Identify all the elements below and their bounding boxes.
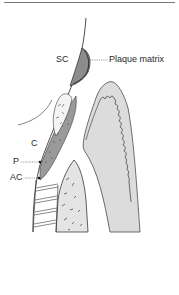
label-plaque-matrix: Plaque matrix	[109, 55, 164, 64]
ac-marker	[38, 177, 41, 180]
label-c: C	[31, 139, 38, 148]
soft-tissue-curve	[18, 100, 52, 125]
alveolar-bone	[56, 160, 88, 232]
label-sc: SC	[56, 55, 69, 64]
p-marker	[39, 161, 42, 164]
supragingival-plaque	[70, 48, 90, 86]
gingiva	[83, 82, 140, 232]
label-p: P	[13, 157, 19, 166]
tooth-cross-section-diagram	[0, 0, 179, 295]
pdl-fibers	[34, 184, 58, 227]
label-ac: AC	[10, 173, 23, 182]
